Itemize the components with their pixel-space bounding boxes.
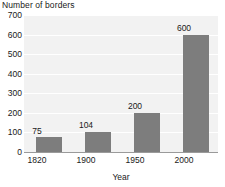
y-tick-label-100: 100	[0, 128, 22, 137]
y-tick-label-600: 600	[0, 31, 22, 40]
bar-value-label-1950: 200	[121, 102, 149, 111]
bar-1950	[134, 113, 160, 152]
y-tick-label-0: 0	[0, 148, 22, 157]
x-axis-title: Year	[24, 172, 218, 182]
bar-2000	[183, 35, 209, 152]
plot-area	[24, 15, 218, 152]
y-tick-label-200: 200	[0, 109, 22, 118]
bar-value-label-1820: 75	[23, 127, 51, 136]
y-tick-label-300: 300	[0, 89, 22, 98]
y-tick-label-700: 700	[0, 11, 22, 20]
y-axis: 700 600 500 400 300 200 100 0	[0, 0, 22, 187]
bar-chart: Number of borders 700 600 500 400 300 20…	[0, 0, 225, 187]
y-tick-label-500: 500	[0, 50, 22, 59]
x-tick-label-1950: 1950	[119, 155, 151, 165]
bar-1900	[85, 132, 111, 152]
y-tick-label-400: 400	[0, 70, 22, 79]
gridline-700	[24, 15, 218, 16]
bar-1820	[36, 137, 62, 152]
x-tick-label-1820: 1820	[21, 155, 53, 165]
bar-value-label-1900: 104	[72, 121, 100, 130]
x-tick-label-2000: 2000	[168, 155, 200, 165]
x-axis-line	[24, 152, 218, 153]
x-tick-label-1900: 1900	[70, 155, 102, 165]
bar-value-label-2000: 600	[170, 24, 198, 33]
